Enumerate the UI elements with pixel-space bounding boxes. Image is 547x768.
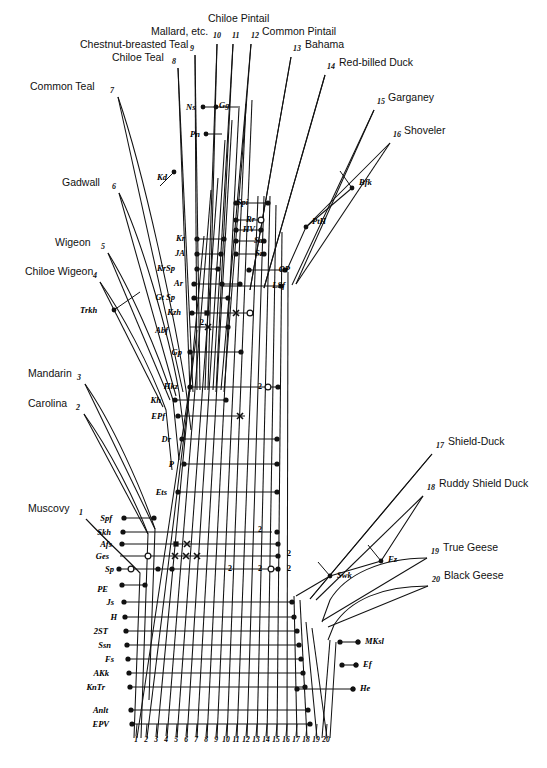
marker-digit: 2	[287, 549, 291, 558]
taxon-label-3: Mandarin	[28, 367, 72, 379]
axis-number-11: 11	[232, 735, 239, 744]
node-label-PtH: PtH	[312, 216, 327, 226]
node-label-Ns: Ns	[185, 102, 196, 112]
taxon-number-3: 3	[76, 373, 81, 382]
taxon-label-5: Wigeon	[55, 236, 91, 248]
axis-number-3: 3	[153, 735, 158, 744]
axis-number-14: 14	[262, 735, 270, 744]
marker-dot	[125, 656, 130, 661]
marker-dot	[179, 436, 184, 441]
node-label-Swk: Swk	[337, 570, 352, 580]
marker-dot	[274, 461, 279, 466]
node-label-Pn: Pn	[190, 129, 200, 139]
marker-dot	[237, 281, 242, 286]
marker-dot	[221, 236, 226, 241]
marker-dot	[124, 642, 129, 647]
taxon-label-8: Chiloe Teal	[112, 51, 164, 63]
marker-square	[173, 541, 178, 546]
marker-dot	[225, 295, 230, 300]
char-label-EPf: EPf	[150, 411, 166, 421]
char-label-Hkz: Hkz	[163, 381, 179, 391]
axis-number-8: 8	[204, 735, 208, 744]
marker-dot	[289, 599, 294, 604]
marker-dot	[194, 236, 199, 241]
marker-dot	[215, 266, 220, 271]
node-dot-Gg	[214, 105, 219, 110]
taxon-label-20: Black Geese	[444, 569, 504, 581]
axis-number-13: 13	[252, 735, 260, 744]
marker-open	[247, 310, 253, 316]
taxon-label-10: Mallard, etc.	[151, 25, 208, 37]
taxon-label-7: Common Teal	[30, 80, 95, 92]
marker-digit: 2	[287, 564, 291, 573]
marker-digit: 2	[228, 564, 232, 573]
char-label-AKk: AKk	[92, 668, 109, 678]
marker-dot	[123, 628, 128, 633]
char-label-Abf: Abf	[154, 325, 169, 335]
taxon-label-11: Chiloe Pintail	[208, 12, 269, 24]
char-label-Sp: Sp	[105, 564, 114, 574]
node-dot-Fz	[379, 559, 384, 564]
taxon-number-18: 18	[427, 483, 435, 492]
marker-open	[258, 217, 264, 223]
char-label-Kzh: Kzh	[166, 307, 181, 317]
taxon-label-12: Common Pintail	[262, 25, 336, 37]
marker-dot	[142, 582, 147, 587]
marker-dot	[119, 541, 124, 546]
char-label-HV: HV	[242, 224, 257, 234]
marker-dot	[187, 384, 192, 389]
node-label-Gg: Gg	[219, 100, 230, 110]
char-label-KnTr: KnTr	[85, 682, 105, 692]
taxon-number-11: 11	[232, 31, 240, 40]
marker-dot	[194, 251, 199, 256]
axis-number-1: 1	[134, 735, 138, 744]
char-label-OP: OP	[279, 264, 291, 274]
axis-number-4: 4	[163, 735, 168, 744]
char-label-Ar: Ar	[173, 278, 184, 288]
char-label-Anlt: Anlt	[92, 705, 109, 715]
taxon-label-2: Carolina	[28, 397, 67, 409]
char-label-Ets: Ets	[155, 487, 168, 497]
char-label-Gp: Gp	[172, 347, 182, 357]
node-dot-Trkh	[112, 308, 117, 313]
marker-dot	[337, 639, 342, 644]
marker-dot	[187, 349, 192, 354]
char-label-Skh: Skh	[97, 527, 111, 537]
marker-dot	[274, 436, 279, 441]
marker-digit: 2	[258, 382, 262, 391]
node-label-MKsl: MKsl	[364, 636, 385, 646]
char-label-Ssn: Ssn	[98, 640, 111, 650]
marker-dot	[246, 267, 251, 272]
node-dot-He	[351, 687, 356, 692]
node-label-Kd: Kd	[156, 172, 168, 182]
taxon-number-5: 5	[101, 242, 105, 251]
marker-dot	[127, 684, 132, 689]
marker-dot	[223, 397, 228, 402]
char-label-JA: JA	[174, 248, 185, 258]
char-label-EPV: EPV	[91, 719, 110, 729]
char-label-Gt Sp: Gt Sp	[155, 292, 175, 302]
char-label-PE: PE	[97, 584, 108, 594]
axis-number-9: 9	[214, 735, 218, 744]
char-label-Kh: Kh	[150, 395, 162, 405]
marker-dot	[191, 281, 196, 286]
node-dot-Ns	[201, 105, 206, 110]
marker-dot	[302, 684, 307, 689]
taxon-number-19: 19	[431, 547, 439, 556]
taxon-number-13: 13	[293, 44, 301, 53]
taxon-label-4: Chiloe Wigeon	[25, 265, 93, 277]
char-label-Spf: Spf	[100, 513, 113, 523]
marker-dot	[265, 200, 270, 205]
marker-dot	[296, 642, 301, 647]
taxon-number-4: 4	[92, 271, 97, 280]
node-label-Trkh: Trkh	[80, 305, 97, 315]
node-label-Fz: Fz	[387, 554, 398, 564]
marker-open	[268, 566, 274, 572]
taxon-label-9: Chestnut-breasted Teal	[80, 38, 188, 50]
taxon-number-17: 17	[436, 441, 445, 450]
axis-number-17: 17	[292, 735, 300, 744]
char-label-LSf: LSf	[271, 280, 286, 290]
axis-number-16: 16	[282, 735, 290, 744]
marker-open	[145, 553, 151, 559]
marker-digit: 2	[200, 318, 204, 327]
